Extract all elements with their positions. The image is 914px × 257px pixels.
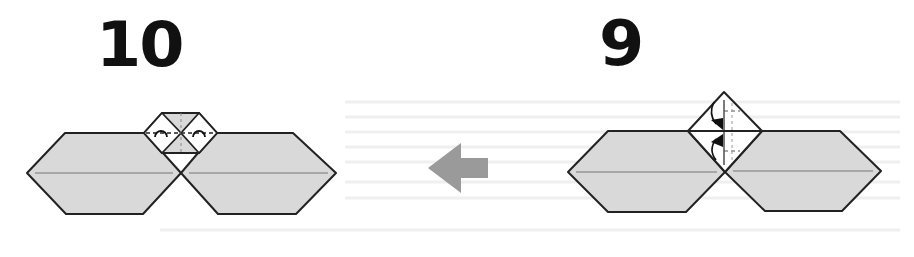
step-9-diagram: [0, 0, 914, 257]
